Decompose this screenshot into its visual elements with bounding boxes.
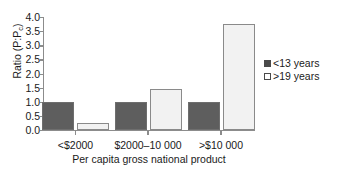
bar-chart-figure: Ratio (P:Pc) 0.00.51.01.52.02.53.03.54.0…: [0, 0, 338, 174]
bar-under13-group3: [188, 102, 220, 130]
x-axis-tick-label: >$10 000: [176, 139, 266, 151]
y-axis-tick-label: 3.5: [8, 26, 40, 36]
y-axis-tick-label: 1.5: [8, 83, 40, 93]
y-axis-tick-label: 2.5: [8, 54, 40, 64]
y-axis-tick-mark: [40, 17, 44, 18]
legend-item-over19: >19 years: [264, 70, 319, 83]
bar-over19-group1: [77, 123, 109, 130]
y-axis-tick-label: 0.0: [8, 125, 40, 135]
y-axis-tick-labels: 0.00.51.01.52.02.53.03.54.0: [8, 10, 40, 138]
bar-under13-group2: [115, 102, 147, 130]
legend-item-label: <13 years: [273, 58, 319, 69]
bar-under13-group1: [42, 102, 74, 130]
y-axis-tick-mark: [40, 45, 44, 46]
y-axis-tick-label: 2.0: [8, 69, 40, 79]
y-axis-tick-mark: [40, 74, 44, 75]
y-axis-tick-label: 1.0: [8, 97, 40, 107]
legend-swatch-icon: [264, 73, 271, 80]
legend-swatch-icon: [264, 60, 271, 67]
bar-over19-group2: [150, 89, 182, 130]
y-axis-tick-mark: [40, 130, 44, 131]
y-axis-tick-label: 0.5: [8, 111, 40, 121]
x-axis-tick-mark: [75, 131, 76, 135]
y-axis-tick-label: 4.0: [8, 12, 40, 22]
y-axis-tick-mark: [40, 31, 44, 32]
chart-legend: <13 years>19 years: [264, 57, 319, 83]
y-axis-tick-mark: [40, 88, 44, 89]
y-axis-tick-label: 3.0: [8, 40, 40, 50]
x-axis-title: Per capita gross national product: [43, 153, 255, 165]
y-axis-tick-mark: [40, 59, 44, 60]
legend-item-under13: <13 years: [264, 57, 319, 70]
x-axis-tick-mark: [220, 131, 221, 135]
legend-item-label: >19 years: [273, 71, 319, 82]
x-axis-tick-mark: [147, 131, 148, 135]
bar-over19-group3: [223, 24, 255, 130]
